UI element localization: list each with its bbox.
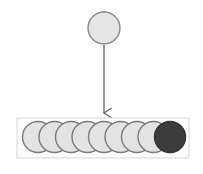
source-node-circle — [88, 12, 120, 44]
queue-item-active — [155, 122, 186, 153]
diagram-canvas — [0, 0, 203, 174]
queue-items — [23, 122, 186, 153]
